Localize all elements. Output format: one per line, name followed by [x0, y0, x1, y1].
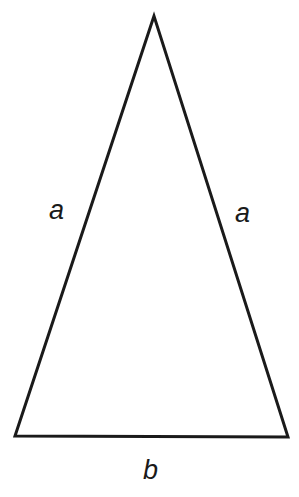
- left-side-label: a: [49, 195, 64, 225]
- diagram-canvas: a a b: [0, 0, 299, 497]
- right-side-label: a: [235, 198, 250, 228]
- base-label: b: [143, 455, 158, 485]
- triangle-figure: a a b: [0, 0, 299, 497]
